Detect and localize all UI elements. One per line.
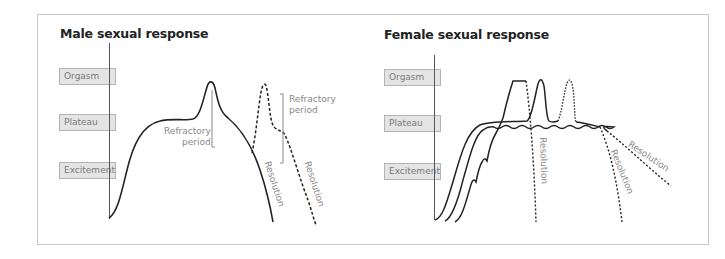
female-resolution-label-1: Resolution bbox=[537, 137, 550, 184]
male-refractory-bracket-1 bbox=[212, 90, 215, 147]
male-refractory-label-1: Refractory period bbox=[164, 126, 208, 148]
female-second-orgasm-dotted bbox=[558, 80, 576, 122]
female-wavy-plateau-curve bbox=[445, 126, 614, 222]
male-refractory-bracket-2 bbox=[280, 94, 283, 163]
response-curves-svg bbox=[0, 0, 725, 259]
female-rapid-orgasm-curve bbox=[455, 81, 526, 222]
male-response-curve bbox=[109, 82, 273, 222]
male-refractory-label-2: Refractory period bbox=[289, 94, 336, 116]
